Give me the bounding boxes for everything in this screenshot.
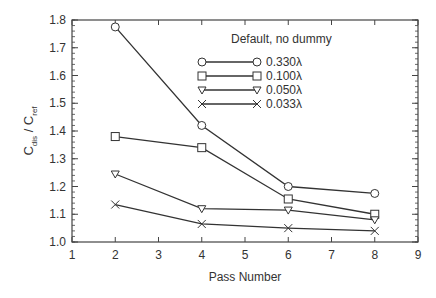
legend-item: 0.330λ <box>198 55 302 69</box>
x-tick-label: 5 <box>242 248 249 262</box>
series-line <box>115 27 375 194</box>
y-tick-label: 1.2 <box>49 180 66 194</box>
circle-marker-icon <box>198 121 206 129</box>
y-tick-label: 1.0 <box>49 235 66 249</box>
series-line <box>115 137 375 215</box>
square-marker-icon <box>284 195 292 203</box>
series-line <box>115 205 375 231</box>
x-tick-label: 2 <box>112 248 119 262</box>
series-triangle-down <box>111 171 379 224</box>
series-x <box>111 201 379 235</box>
legend-label: 0.050λ <box>266 83 302 97</box>
y-tick-label: 1.7 <box>49 41 66 55</box>
square-marker-icon <box>198 144 206 152</box>
legend-label: 0.033λ <box>266 97 302 111</box>
y-tick-label: 1.4 <box>49 124 66 138</box>
legend-item: 0.033λ <box>198 97 302 111</box>
x-tick-label: 3 <box>155 248 162 262</box>
x-tick-label: 1 <box>69 248 76 262</box>
legend: Default, no dummy 0.330λ0.100λ0.050λ0.03… <box>198 32 332 111</box>
square-marker-icon <box>253 72 261 80</box>
x-tick-label: 4 <box>198 248 205 262</box>
circle-marker-icon <box>253 58 261 66</box>
x-tick-label: 6 <box>285 248 292 262</box>
square-marker-icon <box>111 133 119 141</box>
series-circle <box>111 23 379 198</box>
y-axis-label: Cdis / Cref <box>21 106 39 156</box>
x-axis-label: Pass Number <box>209 270 282 284</box>
y-tick-label: 1.5 <box>49 96 66 110</box>
square-marker-icon <box>198 72 206 80</box>
y-tick-label: 1.8 <box>49 13 66 27</box>
axes <box>72 20 418 242</box>
y-axis-label-text: Cdis / Cref <box>21 106 39 156</box>
legend-item: 0.050λ <box>198 83 302 97</box>
axis-ticks: 1234567891.01.11.21.31.41.51.61.71.8 <box>49 13 421 262</box>
legend-label: 0.330λ <box>266 55 302 69</box>
y-tick-label: 1.1 <box>49 207 66 221</box>
triangle-marker-icon <box>371 217 379 224</box>
x-tick-label: 9 <box>415 248 422 262</box>
legend-label: 0.100λ <box>266 69 302 83</box>
data-series <box>111 23 379 235</box>
x-tick-label: 8 <box>371 248 378 262</box>
circle-marker-icon <box>111 23 119 31</box>
line-chart: 1234567891.01.11.21.31.41.51.61.71.8 Def… <box>0 0 436 298</box>
legend-title: Default, no dummy <box>231 32 332 46</box>
plot-frame <box>72 20 418 242</box>
circle-marker-icon <box>198 58 206 66</box>
circle-marker-icon <box>284 183 292 191</box>
series-square <box>111 133 379 219</box>
y-tick-label: 1.6 <box>49 69 66 83</box>
chart-canvas: 1234567891.01.11.21.31.41.51.61.71.8 Def… <box>0 0 436 298</box>
x-tick-label: 7 <box>328 248 335 262</box>
circle-marker-icon <box>371 189 379 197</box>
legend-item: 0.100λ <box>198 69 302 83</box>
y-tick-label: 1.3 <box>49 152 66 166</box>
